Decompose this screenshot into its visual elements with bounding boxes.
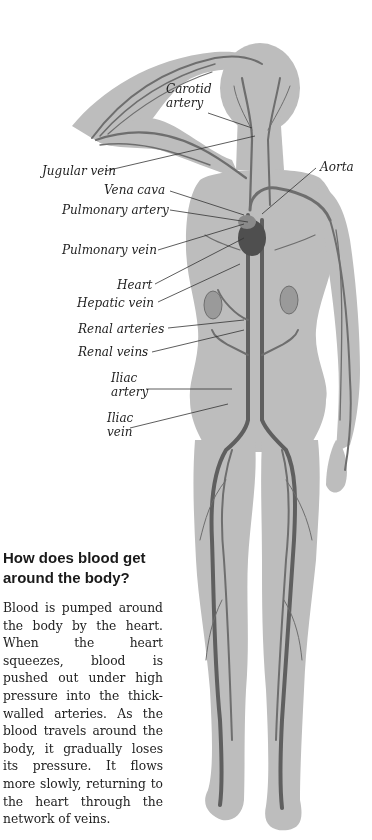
label-iliac-artery: Iliac artery [111,371,148,399]
label-carotid-line2: artery [166,96,212,110]
label-iliac-vein-line1: Iliac [107,411,133,425]
sidebar-body: Blood is pumped around the body by the h… [3,600,163,829]
label-carotid-line1: Carotid [166,82,212,96]
label-renal-arteries: Renal arteries [78,322,164,336]
label-aorta: Aorta [320,160,354,174]
label-pulmonary-vein: Pulmonary vein [62,243,157,257]
label-renal-veins: Renal veins [78,345,148,359]
label-iliac-artery-line2: artery [111,385,148,399]
label-hepatic-vein: Hepatic vein [77,296,154,310]
circulatory-diagram: Carotid artery Aorta Jugular vein Vena c… [0,0,372,840]
label-iliac-vein-line2: vein [107,425,133,439]
label-heart: Heart [117,278,152,292]
label-carotid-artery: Carotid artery [166,82,212,110]
label-vena-cava: Vena cava [104,183,165,197]
label-iliac-vein: Iliac vein [107,411,133,439]
sidebar-heading: How does blood get around the body? [3,548,178,588]
label-iliac-artery-line1: Iliac [111,371,148,385]
label-pulmonary-artery: Pulmonary artery [62,203,169,217]
label-jugular-vein: Jugular vein [42,164,116,178]
